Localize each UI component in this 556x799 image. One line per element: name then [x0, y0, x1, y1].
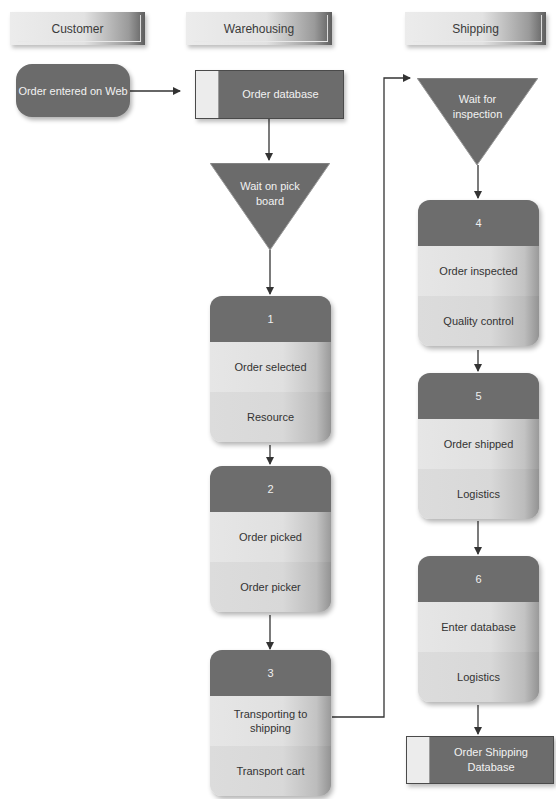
step-activity: Order shipped — [418, 419, 539, 469]
step-activity-line1: Transporting to — [234, 707, 308, 721]
wait-pick-line1: Wait on pick — [210, 179, 330, 194]
shipping-database-line1: Order Shipping — [454, 745, 528, 760]
step-activity: Order inspected — [418, 246, 539, 296]
step-number: 5 — [418, 373, 539, 419]
step-resource: Logistics — [418, 652, 539, 702]
lane-header-shipping: Shipping — [405, 12, 546, 45]
wait-pick-label: Wait on pick board — [210, 179, 330, 209]
start-terminator: Order entered on Web — [16, 64, 130, 117]
step-3: 3 Transporting to shipping Transport car… — [210, 650, 331, 796]
wait-inspection-triangle: Wait for inspection — [417, 78, 538, 165]
wait-pick-board-triangle: Wait on pick board — [210, 163, 330, 250]
lane-header-warehousing: Warehousing — [186, 12, 332, 45]
step-activity: Order picked — [210, 512, 331, 562]
order-database: Order database — [195, 70, 344, 119]
step-resource: Resource — [210, 392, 331, 442]
lane-label: Customer — [51, 22, 103, 36]
database-strip — [196, 71, 219, 118]
wait-inspection-label: Wait for inspection — [417, 92, 538, 122]
step-activity: Transporting to shipping — [210, 696, 331, 746]
start-label: Order entered on Web — [18, 85, 127, 97]
step-resource: Transport cart — [210, 746, 331, 796]
lane-label: Shipping — [452, 22, 499, 36]
step-6: 6 Enter database Logistics — [418, 556, 539, 702]
step-number: 6 — [418, 556, 539, 602]
order-shipping-database: Order Shipping Database — [406, 736, 554, 784]
step-number: 1 — [210, 296, 331, 342]
step-resource: Order picker — [210, 562, 331, 612]
step-1: 1 Order selected Resource — [210, 296, 331, 442]
step-activity: Order selected — [210, 342, 331, 392]
wait-inspection-line2: inspection — [417, 107, 538, 122]
step-number: 2 — [210, 466, 331, 512]
order-database-label: Order database — [218, 71, 343, 118]
step-5: 5 Order shipped Logistics — [418, 373, 539, 519]
shipping-database-label: Order Shipping Database — [429, 737, 553, 783]
step-resource: Quality control — [418, 296, 539, 346]
step-number: 4 — [418, 200, 539, 246]
step-2: 2 Order picked Order picker — [210, 466, 331, 612]
step-4: 4 Order inspected Quality control — [418, 200, 539, 346]
database-strip — [407, 737, 430, 783]
wait-pick-line2: board — [210, 194, 330, 209]
step-resource: Logistics — [418, 469, 539, 519]
lane-label: Warehousing — [224, 22, 294, 36]
lane-header-customer: Customer — [10, 12, 145, 45]
step-activity-line2: shipping — [250, 721, 291, 735]
step-number: 3 — [210, 650, 331, 696]
step-activity: Enter database — [418, 602, 539, 652]
shipping-database-line2: Database — [467, 760, 514, 775]
wait-inspection-line1: Wait for — [417, 92, 538, 107]
